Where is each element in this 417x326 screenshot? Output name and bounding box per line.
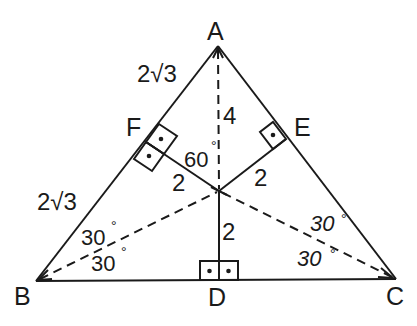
geometry-diagram: A B C D E F 2√3 2√3 4 2 2 2 60 ° 30 ° 30… <box>0 0 417 326</box>
degree-mark: ° <box>341 211 347 227</box>
length-label-ao: 4 <box>223 102 236 129</box>
right-angle-dot <box>271 133 276 138</box>
right-angle-dot <box>159 137 164 142</box>
angle-label-abo: 30 <box>81 225 105 250</box>
length-label-of: 2 <box>172 169 185 196</box>
point-label-a: A <box>207 17 224 45</box>
segment-ao <box>218 50 219 189</box>
side-ac <box>218 46 396 279</box>
point-label-e: E <box>294 113 311 141</box>
point-label-c: C <box>386 282 404 310</box>
point-label-f: F <box>126 113 141 141</box>
length-label-af: 2√3 <box>137 60 177 87</box>
angle-label-oca: 30 <box>310 211 335 236</box>
degree-mark: ° <box>111 218 117 234</box>
degree-mark: ° <box>211 138 217 154</box>
point-label-b: B <box>14 282 31 310</box>
right-angle-dot <box>226 269 231 274</box>
angle-label-aof: 60 <box>184 147 208 172</box>
point-label-d: D <box>208 283 226 311</box>
angle-label-obd: 30 <box>91 251 115 276</box>
length-label-oe: 2 <box>254 164 267 191</box>
perpendiculars <box>146 139 286 280</box>
degree-mark: ° <box>330 246 336 262</box>
length-label-fb: 2√3 <box>37 188 77 215</box>
angle-label-ocd: 30 <box>297 246 322 271</box>
right-angle-dot <box>147 154 152 159</box>
right-angle-e <box>260 122 286 149</box>
length-label-od: 2 <box>222 218 235 245</box>
degree-mark: ° <box>121 244 127 260</box>
right-angle-dot <box>207 269 212 274</box>
right-angle-d <box>200 261 238 280</box>
